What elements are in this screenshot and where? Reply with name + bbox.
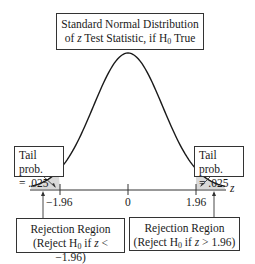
title-text: Test Statistic, if H <box>82 32 168 44</box>
rejection-region-left-box: Rejection Region (Reject H0 if z < −1.96… <box>16 218 125 253</box>
title-line2: of z Test Statistic, if H0 True <box>57 31 203 45</box>
tick-label-0: 0 <box>125 196 131 208</box>
tail-right-line1: Tail prob. <box>199 148 243 176</box>
axis-variable-label: z <box>230 182 234 194</box>
rej-left-line2: (Reject H0 if z < −1.96) <box>17 236 124 264</box>
rej-right-line1: Rejection Region <box>130 221 239 235</box>
reject-arrowhead-left <box>41 191 45 196</box>
tail-left-line1: Tail prob. <box>19 148 63 176</box>
reject-arrowhead-right <box>212 191 216 196</box>
rej-text: > 1.96) <box>199 236 235 248</box>
rej-text: (Reject H <box>134 236 178 248</box>
tail-left-line2: = .025 <box>19 176 63 190</box>
tail-prob-right-box: Tail prob. = .025 <box>194 146 244 177</box>
rej-text: (Reject H <box>33 237 77 249</box>
rej-text: if <box>182 236 195 248</box>
title-box: Standard Normal Distribution of z Test S… <box>56 13 204 50</box>
tail-right-line2: = .025 <box>199 176 243 190</box>
title-text: True <box>171 32 195 44</box>
tick-label-neg196: −1.96 <box>46 196 73 208</box>
tail-prob-left-box: Tail prob. = .025 <box>14 146 64 177</box>
rej-right-line2: (Reject H0 if z > 1.96) <box>130 235 239 249</box>
title-line1: Standard Normal Distribution <box>57 17 203 31</box>
tick-label-196: 1.96 <box>186 196 206 208</box>
rej-left-line1: Rejection Region <box>17 222 124 236</box>
title-text: of <box>65 32 77 44</box>
rejection-region-right-box: Rejection Region (Reject H0 if z > 1.96) <box>129 217 240 251</box>
rej-text: if <box>81 237 94 249</box>
